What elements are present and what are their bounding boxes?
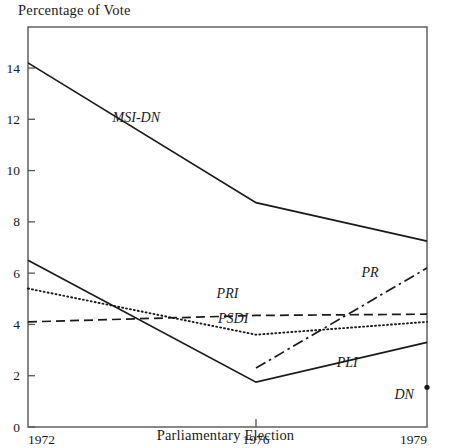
y-tick-label-14: 14 [7, 61, 21, 76]
y-tick-label-6: 6 [13, 266, 20, 281]
series-label-msi-dn: MSI-DN [112, 110, 161, 125]
series-label-pli: PLI [336, 355, 359, 370]
series-line-pr [256, 268, 427, 368]
series-label-pr: PR [360, 265, 379, 280]
vote-percentage-line-chart: Percentage of Vote 024681012141972197619… [0, 0, 451, 448]
x-axis-title: Parliamentary Election [0, 427, 451, 444]
series-label-dn: DN [393, 387, 414, 402]
series-label-psdi: PSDI [217, 311, 250, 326]
y-tick-label-10: 10 [7, 163, 21, 178]
y-tick-label-8: 8 [13, 214, 20, 229]
series-label-pri: PRI [216, 286, 240, 301]
plot-area: 02468101214197219761979MSI-DNPRIPSDIPRPL… [0, 0, 451, 448]
y-tick-label-4: 4 [13, 317, 20, 332]
series-line-msi-dn [28, 63, 427, 241]
y-tick-label-2: 2 [13, 368, 20, 383]
y-tick-label-12: 12 [7, 112, 21, 127]
series-point-dn [424, 385, 429, 390]
